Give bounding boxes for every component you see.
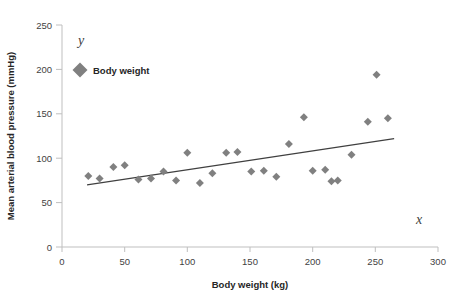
y-tick-label-200: 200	[36, 64, 52, 75]
data-point-marker	[348, 151, 356, 159]
legend: Body weight	[73, 63, 151, 78]
data-point-marker	[247, 168, 255, 176]
y-tick-label-50: 50	[41, 197, 52, 208]
data-point-marker	[96, 175, 104, 183]
data-point-marker	[233, 148, 241, 156]
data-point-marker	[172, 176, 180, 184]
data-point-marker	[321, 166, 329, 174]
x-axis-ticks	[62, 247, 438, 252]
data-point-marker	[208, 169, 216, 177]
x-tick-label-100: 100	[179, 256, 195, 267]
chart-plot-area: 0 50 100 150 200 250 0 50 100 150 200 25…	[0, 0, 460, 299]
data-point-marker	[285, 140, 293, 148]
y-axis-ticks	[56, 25, 62, 247]
data-point-marker	[196, 179, 204, 187]
x-tick-label-0: 0	[59, 256, 64, 267]
data-point-marker	[260, 167, 268, 175]
legend-diamond-icon	[73, 63, 88, 78]
data-point-marker	[109, 163, 117, 171]
trendline	[87, 139, 394, 185]
y-tick-label-100: 100	[36, 153, 52, 164]
data-point-marker	[272, 173, 280, 181]
x-tick-label-150: 150	[242, 256, 258, 267]
data-point-marker	[84, 172, 92, 180]
y-axis-title: Mean arterial blood pressure (mmHg)	[5, 52, 16, 220]
y-tick-label-0: 0	[47, 242, 52, 253]
data-point-marker	[373, 71, 381, 79]
x-axis-title: Body weight (kg)	[212, 279, 289, 290]
y-tick-label-150: 150	[36, 108, 52, 119]
data-point-marker	[300, 113, 308, 121]
x-tick-label-300: 300	[430, 256, 446, 267]
data-point-marker	[309, 167, 317, 175]
x-tick-label-250: 250	[367, 256, 383, 267]
data-point-marker	[183, 149, 191, 157]
data-points	[84, 71, 392, 187]
y-variable-annotation: y	[76, 33, 85, 48]
data-point-marker	[222, 149, 230, 157]
y-tick-label-250: 250	[36, 20, 52, 31]
data-point-marker	[384, 114, 392, 122]
legend-label: Body weight	[93, 65, 150, 76]
data-point-marker	[334, 176, 342, 184]
scatter-chart: 0 50 100 150 200 250 0 50 100 150 200 25…	[0, 0, 460, 299]
x-variable-annotation: x	[415, 212, 423, 227]
data-point-marker	[364, 118, 372, 126]
x-tick-label-50: 50	[119, 256, 130, 267]
x-tick-label-200: 200	[305, 256, 321, 267]
data-point-marker	[327, 177, 335, 185]
data-point-marker	[121, 161, 129, 169]
trendline-segment	[87, 139, 394, 185]
